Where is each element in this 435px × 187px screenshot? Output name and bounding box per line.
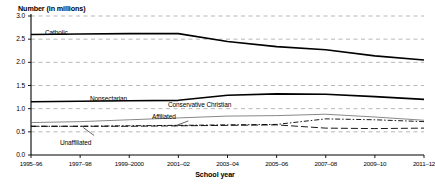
- y-tick-label: 1.5: [3, 82, 25, 89]
- x-tick-label: 1999–2000: [115, 160, 144, 167]
- series-label-nonsectarian: Nonsectarian: [90, 95, 127, 102]
- x-tick-label: 2009–10: [364, 160, 387, 167]
- series-label-affiliated: Affiliated: [152, 113, 176, 120]
- y-tick-label: 1.0: [3, 105, 25, 112]
- x-tick-label: 2001–02: [167, 160, 190, 167]
- y-tick-label: 3.0: [3, 12, 25, 19]
- x-tick-label: 2005–06: [265, 160, 288, 167]
- series-label-conservative-christian: Conservative Christian: [168, 101, 231, 108]
- y-tick-label: 2.5: [3, 35, 25, 42]
- series-line-2: [31, 114, 424, 122]
- x-tick-label: 2003–04: [216, 160, 239, 167]
- y-tick-label: 2.0: [3, 58, 25, 65]
- x-axis-title: School year: [0, 170, 430, 179]
- x-tick-label: 2007–08: [314, 160, 337, 167]
- x-tick-label: 1995–96: [20, 160, 43, 167]
- y-axis-title: Number (in millions): [18, 4, 85, 13]
- series-line-0: [31, 34, 424, 60]
- y-tick-label: 0.0: [3, 151, 25, 158]
- x-tick-label: 1997–98: [69, 160, 92, 167]
- series-label-unaffiliated: Unaffiliated: [60, 139, 91, 146]
- y-tick-label: 0.5: [3, 128, 25, 135]
- series-line-4: [31, 125, 424, 129]
- series-label-catholic: Catholic: [45, 29, 68, 36]
- x-tick-label: 2011–12: [413, 160, 435, 167]
